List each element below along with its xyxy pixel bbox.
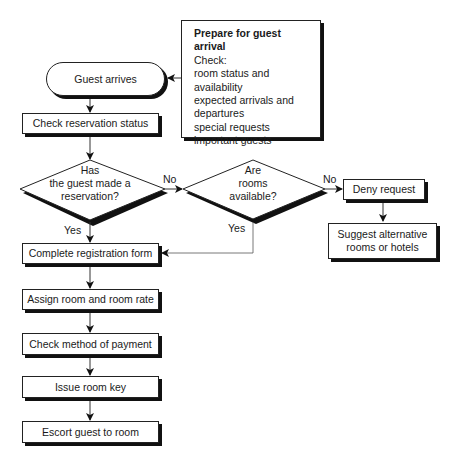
prep-note-line: important guests <box>194 134 314 147</box>
prep-note-line: room status and <box>194 67 314 80</box>
prep-note-line: Check: <box>194 54 314 67</box>
step-complete-registration: Complete registration form <box>22 243 159 264</box>
prep-note-line: expected arrivals and <box>194 94 314 107</box>
prep-note-line: availability <box>194 81 314 94</box>
prep-note-line: departures <box>194 107 314 120</box>
prep-note: Prepare for guest arrival Check: room st… <box>181 20 321 138</box>
decision-line: rooms <box>213 177 293 190</box>
step-escort-guest: Escort guest to room <box>22 421 159 443</box>
label-yes-1: Yes <box>64 224 81 236</box>
decision-reservation-text: Has the guest made a reservation? <box>40 164 140 203</box>
step-assign-room: Assign room and room rate <box>22 289 159 310</box>
decision-line: Are <box>213 164 293 177</box>
decision-line: the guest made a <box>40 177 140 190</box>
step-issue-key: Issue room key <box>22 376 159 398</box>
decision-line: available? <box>213 190 293 203</box>
step-suggest-alternatives: Suggest alternative rooms or hotels <box>328 223 437 259</box>
decision-line: reservation? <box>40 190 140 203</box>
label-yes-2: Yes <box>228 222 245 234</box>
step-check-reservation: Check reservation status <box>22 113 159 134</box>
decision-rooms-text: Are rooms available? <box>213 164 293 203</box>
label-no-2: No <box>323 173 336 185</box>
suggest-line: Suggest alternative <box>338 228 428 241</box>
prep-note-title: Prepare for guest arrival <box>194 27 314 54</box>
step-check-payment: Check method of payment <box>22 333 159 355</box>
label-no-1: No <box>163 173 176 185</box>
suggest-line: rooms or hotels <box>346 241 418 254</box>
step-deny-request: Deny request <box>343 179 425 200</box>
start-guest-arrives: Guest arrives <box>46 62 165 96</box>
prep-note-line: special requests <box>194 121 314 134</box>
decision-line: Has <box>40 164 140 177</box>
